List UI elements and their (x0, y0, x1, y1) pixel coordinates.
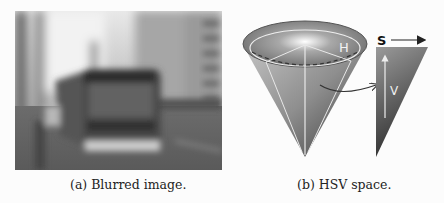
hsv-space-diagram: H V S (228, 0, 444, 172)
hsv-cone: H (243, 21, 367, 157)
blurred-image (15, 11, 222, 170)
saturation-label: S (377, 33, 386, 48)
caption-a: (a) Blurred image. (70, 177, 186, 192)
value-label: V (390, 84, 399, 98)
sv-triangle: V S (376, 33, 428, 157)
caption-b: (b) HSV space. (297, 177, 391, 192)
hue-label: H (339, 40, 349, 55)
